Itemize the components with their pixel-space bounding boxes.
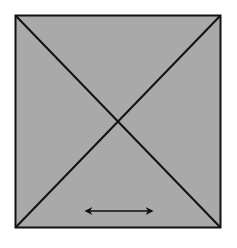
diagram-canvas [0, 0, 237, 248]
